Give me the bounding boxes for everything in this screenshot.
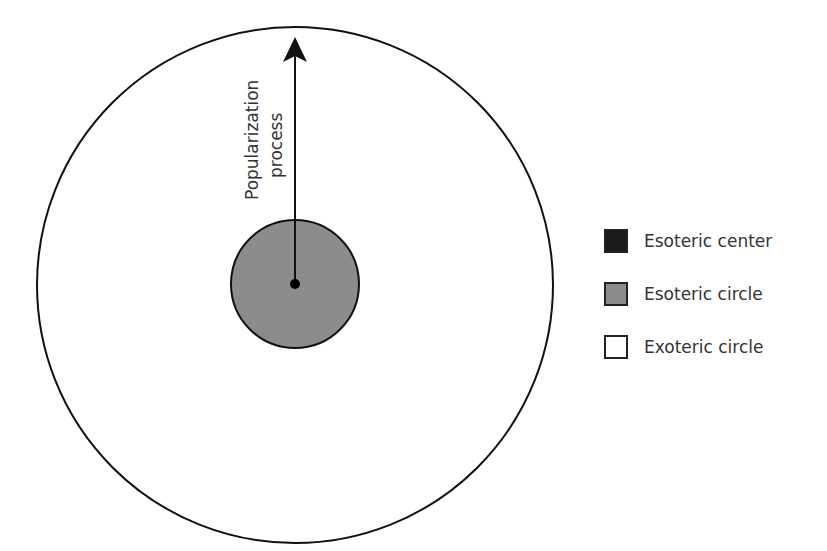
arrow-label-line2: process (266, 113, 286, 178)
esoteric-center (290, 279, 300, 289)
legend-label: Esoteric circle (644, 284, 763, 304)
legend-item-exoteric-circle: Exoteric circle (604, 320, 772, 373)
arrow-label-line1: Popularization (242, 80, 262, 200)
exoteric-circle-swatch-icon (604, 335, 628, 359)
legend-item-esoteric-circle: Esoteric circle (604, 267, 772, 320)
esoteric-center-swatch-icon (604, 229, 628, 253)
legend: Esoteric center Esoteric circle Exoteric… (604, 214, 772, 373)
esoteric-circle-swatch-icon (604, 282, 628, 306)
legend-label: Esoteric center (644, 231, 772, 251)
legend-label: Exoteric circle (644, 337, 763, 357)
legend-item-esoteric-center: Esoteric center (604, 214, 772, 267)
